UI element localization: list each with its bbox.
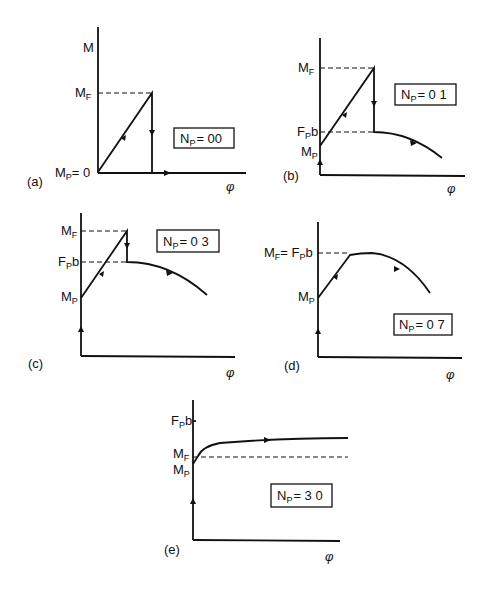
fpb-label: FPb — [58, 254, 79, 271]
x-axis-label: φ — [446, 367, 455, 382]
panel-c: MF FPb MP NP= 0 3 (c) φ — [28, 213, 235, 380]
arrow-right-icon — [264, 437, 271, 443]
mp-label: MP — [301, 144, 318, 161]
panel-label: (c) — [28, 356, 43, 371]
panel-e: FPb MF MP NP= 3 0 (e) φ — [164, 400, 348, 564]
x-axis — [318, 357, 462, 358]
np-text: NP= 0 3 — [163, 234, 209, 251]
x-axis-label: φ — [226, 179, 235, 194]
arrow-up-icon — [190, 498, 196, 504]
panel-a: M MF MP= 0 NP= 00 (a) φ — [27, 27, 246, 194]
np-text: NP= 3 0 — [277, 488, 323, 505]
panel-label: (d) — [284, 358, 300, 373]
x-axis — [320, 175, 465, 176]
x-axis-label: φ — [226, 365, 235, 380]
panel-b: MF FPb MP NP= 0 1 (b) φ — [283, 38, 465, 196]
panel-label: (e) — [164, 542, 180, 557]
moment-rotation-diagram: M MF MP= 0 NP= 00 (a) φ MF FPb MP NP= 0 … — [0, 0, 487, 589]
response-path — [98, 93, 152, 173]
x-axis-label: φ — [325, 549, 334, 564]
x-axis-label: φ — [447, 181, 456, 196]
arrow-down-icon — [124, 243, 130, 249]
mf-fpb-label: MF= FPb — [264, 245, 313, 262]
arrow-up-icon — [317, 159, 323, 165]
mf-label: MF — [298, 60, 315, 77]
x-axis — [81, 356, 235, 357]
mp-label: MP — [173, 462, 190, 479]
np-text: NP= 0 1 — [401, 87, 447, 104]
fpb-label: FPb — [171, 413, 192, 430]
response-path — [318, 253, 430, 298]
arrow-right-icon — [164, 170, 171, 176]
fpb-label: FPb — [297, 124, 318, 141]
arrow-down-icon — [149, 130, 155, 136]
np-text: NP= 0 7 — [399, 317, 445, 334]
panel-d: MF= FPb MP NP= 0 7 (d) φ — [264, 222, 462, 382]
arrow-up-icon — [78, 326, 84, 332]
arrow-up-icon — [315, 328, 321, 334]
x-axis — [193, 540, 340, 541]
response-path — [193, 438, 348, 464]
mf-label: MF — [173, 446, 190, 463]
arrow-down-icon — [371, 101, 377, 107]
arrow-right-icon — [394, 266, 400, 272]
mp-label: MP= 0 — [55, 165, 90, 182]
mp-label: MP — [298, 289, 315, 306]
panel-label: (b) — [283, 168, 299, 183]
y-axis-label: M — [83, 40, 94, 55]
panel-label: (a) — [27, 174, 43, 189]
mf-label: MF — [75, 85, 92, 102]
mp-label: MP — [61, 289, 78, 306]
np-text: NP= 00 — [180, 131, 222, 148]
mf-label: MF — [61, 223, 78, 240]
response-path — [320, 68, 442, 158]
